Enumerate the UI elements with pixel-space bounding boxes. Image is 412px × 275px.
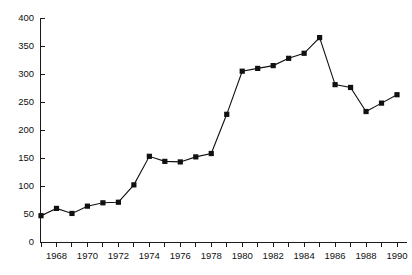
x-tick-label: 1982 [263,250,284,261]
x-tick-label: 1984 [294,250,315,261]
data-point-marker [332,82,337,87]
data-point-marker [162,159,167,164]
line-chart: 050100150200250300350400 196819701972197… [0,0,412,275]
data-point-marker [131,182,136,187]
data-series [41,38,397,216]
x-axis: 1968197019721974197619781980198219841986… [40,242,408,261]
data-point-marker [363,109,368,114]
y-axis: 050100150200250300350400 [18,12,45,247]
y-tick-label: 50 [23,208,34,219]
x-tick-label: 1988 [355,250,376,261]
data-point-marker [224,112,229,117]
data-point-marker [116,200,121,205]
series-polyline [41,38,397,216]
y-tick-label: 0 [29,236,34,247]
x-tick-label: 1968 [46,250,67,261]
data-point-marker [348,85,353,90]
x-tick-label: 1970 [77,250,98,261]
x-tick-label: 1972 [108,250,129,261]
data-point-marker [38,213,43,218]
data-point-marker [100,200,105,205]
data-point-marker [271,63,276,68]
data-markers [38,35,399,218]
y-tick-label: 250 [18,96,34,107]
y-tick-label: 100 [18,180,34,191]
data-point-marker [302,51,307,56]
y-tick-label: 300 [18,68,34,79]
y-tick-label: 150 [18,152,34,163]
data-point-marker [85,204,90,209]
y-tick-label: 200 [18,124,34,135]
y-tick-label: 350 [18,40,34,51]
data-point-marker [209,151,214,156]
y-tick-label: 400 [18,12,34,23]
data-point-marker [193,154,198,159]
data-point-marker [286,56,291,61]
x-tick-label: 1980 [232,250,253,261]
data-point-marker [69,211,74,216]
x-tick-label: 1990 [386,250,407,261]
data-point-marker [255,66,260,71]
data-point-marker [317,35,322,40]
x-tick-label: 1978 [201,250,222,261]
data-point-marker [379,101,384,106]
data-point-marker [178,159,183,164]
x-tick-label: 1974 [139,250,160,261]
data-point-marker [394,92,399,97]
data-point-marker [54,206,59,211]
x-tick-label: 1986 [325,250,346,261]
data-point-marker [240,69,245,74]
chart-container: 050100150200250300350400 196819701972197… [0,0,412,275]
x-tick-label: 1976 [170,250,191,261]
data-point-marker [147,154,152,159]
